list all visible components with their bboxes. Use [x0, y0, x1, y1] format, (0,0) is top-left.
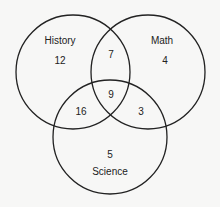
science-only-value: 5 — [107, 149, 113, 160]
venn-diagram: History 12 Math 4 7 9 16 3 5 Science — [0, 0, 220, 207]
science-label: Science — [92, 166, 128, 177]
history-math-value: 7 — [108, 49, 114, 60]
math-label: Math — [151, 35, 173, 46]
history-science-value: 16 — [75, 106, 87, 117]
history-circle — [16, 15, 130, 129]
all-three-value: 9 — [108, 89, 114, 100]
math-science-value: 3 — [138, 106, 144, 117]
history-label: History — [44, 35, 75, 46]
math-circle — [91, 15, 205, 129]
history-only-value: 12 — [54, 55, 66, 66]
math-only-value: 4 — [162, 55, 168, 66]
